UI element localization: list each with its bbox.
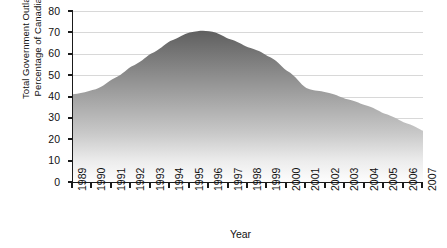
x-axis-tick-label: 1997 xyxy=(233,168,244,191)
x-axis-tick-label: 1992 xyxy=(135,168,146,191)
x-axis-tick-label: 2006 xyxy=(408,168,419,191)
x-axis-tick-label: 2004 xyxy=(369,168,380,191)
x-axis-tick-label: 2005 xyxy=(388,168,399,191)
x-axis-tick-label: 1989 xyxy=(77,168,88,191)
x-axis-tick-label: 1999 xyxy=(271,168,282,191)
x-axis-tick-label: 1990 xyxy=(96,168,107,191)
x-axis-title-text: Year xyxy=(196,228,251,240)
x-axis-tick-labels: 1989199019911992199319941995199619971998… xyxy=(0,0,447,248)
x-axis-tick-label: 2007 xyxy=(427,168,438,191)
x-axis-tick-label: 1995 xyxy=(194,168,205,191)
x-axis-tick-label: 2003 xyxy=(349,168,360,191)
x-axis-tick-label: 1996 xyxy=(213,168,224,191)
x-axis-tick-label: 2002 xyxy=(330,168,341,191)
x-axis-title: Year xyxy=(0,228,447,240)
x-axis-tick-label: 1991 xyxy=(116,168,127,191)
chart-figure: Total Government Outlays as a Percentage… xyxy=(0,0,447,248)
x-axis-tick-label: 2001 xyxy=(310,168,321,191)
x-axis-tick-label: 1994 xyxy=(174,168,185,191)
x-axis-tick-label: 1998 xyxy=(252,168,263,191)
x-axis-tick-label: 2000 xyxy=(291,168,302,191)
x-axis-tick-label: 1993 xyxy=(155,168,166,191)
